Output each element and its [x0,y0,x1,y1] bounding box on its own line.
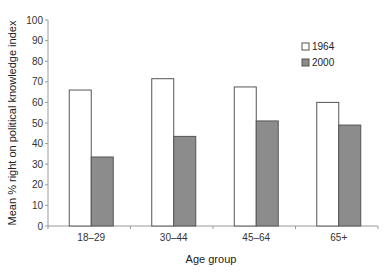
y-tick-label: 70 [32,76,44,87]
bars [69,79,361,226]
legend: 19642000 [302,41,335,68]
x-tick-label: 65+ [330,232,347,243]
x-axis-title: Age group [186,253,237,265]
y-tick-label: 80 [32,56,44,67]
bar-2000-65+ [339,125,361,226]
x-tick-label: 18–29 [77,232,105,243]
bar-2000-30–44 [174,136,196,226]
legend-label: 2000 [312,57,335,68]
y-axis-title: Mean % right on political knowledge inde… [6,20,18,225]
bar-2000-18–29 [91,157,113,226]
legend-swatch-icon [302,59,309,66]
y-tick-label: 100 [26,15,43,26]
x-axis: 18–2930–4445–6465+ [48,226,378,243]
bar-1964-30–44 [152,79,174,226]
bar-2000-45–64 [256,121,278,226]
x-tick-label: 30–44 [160,232,188,243]
bar-1964-65+ [317,102,339,226]
y-tick-label: 20 [32,179,44,190]
legend-label: 1964 [312,41,335,52]
y-tick-label: 10 [32,200,44,211]
y-tick-label: 60 [32,97,44,108]
y-tick-label: 50 [32,118,44,129]
y-tick-label: 40 [32,138,44,149]
bar-1964-18–29 [69,90,91,226]
y-tick-label: 0 [37,221,43,232]
y-tick-label: 30 [32,159,44,170]
legend-swatch-icon [302,43,309,50]
y-tick-label: 90 [32,35,44,46]
bar-1964-45–64 [234,87,256,226]
bar-chart: 0102030405060708090100 18–2930–4445–6465… [0,0,388,272]
x-tick-label: 45–64 [242,232,270,243]
y-axis: 0102030405060708090100 [26,15,48,232]
